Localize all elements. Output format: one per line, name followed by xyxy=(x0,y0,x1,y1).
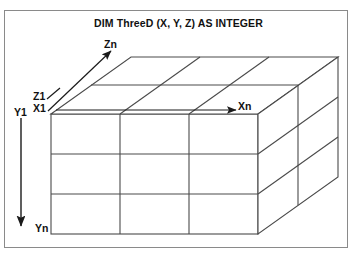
axis-label-zn: Zn xyxy=(104,38,117,50)
axis-label-z1: Z1 xyxy=(33,90,45,102)
cuboid-front-face xyxy=(51,114,258,234)
axis-label-xn: Xn xyxy=(238,100,251,112)
z-min-tick xyxy=(47,88,60,99)
axis-label-x1: X1 xyxy=(33,102,46,114)
axis-label-yn: Yn xyxy=(35,222,48,234)
three-d-array-diagram xyxy=(0,0,357,258)
figure-root: DIM ThreeD (X, Y, Z) AS INTEGER xyxy=(0,0,357,258)
axis-label-y1: Y1 xyxy=(14,106,27,118)
